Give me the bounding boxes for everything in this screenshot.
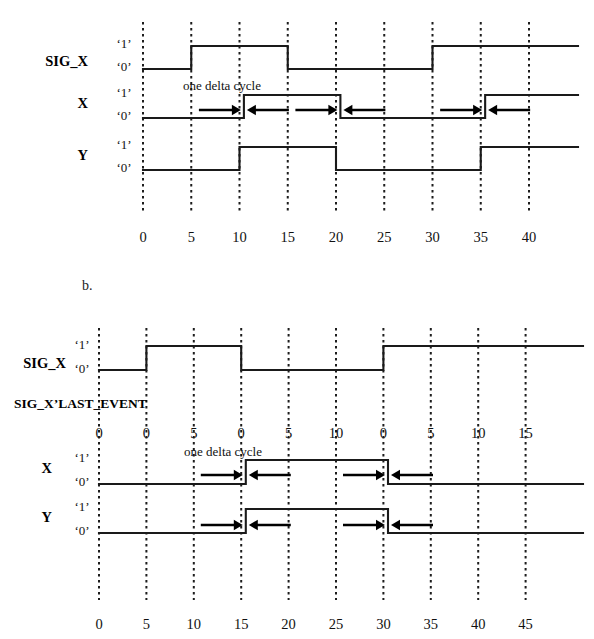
delta-cycle-annotation: one delta cycle bbox=[183, 78, 261, 93]
waveforms-a bbox=[143, 46, 578, 170]
delta-arrow-left-head bbox=[391, 470, 400, 480]
waveform-SIG_X bbox=[143, 46, 578, 69]
waveform-X bbox=[143, 95, 578, 118]
signal-name-SIG_X: SIG_X bbox=[23, 355, 66, 371]
axis-tick-30: 30 bbox=[376, 616, 391, 632]
last-event-tick-3: 0 bbox=[238, 425, 245, 441]
last-event-tick-2: 5 bbox=[190, 425, 197, 441]
waveform-Y bbox=[99, 509, 583, 533]
last-event-label: SIG_X’LAST_EVENT bbox=[14, 396, 147, 411]
last-event-tick-5: 10 bbox=[329, 425, 344, 441]
axis-tick-15: 15 bbox=[281, 229, 296, 245]
axis-tick-5: 5 bbox=[188, 229, 195, 245]
gridlines-b bbox=[99, 328, 526, 600]
last-event-tick-4: 5 bbox=[285, 425, 292, 441]
axis-tick-0: 0 bbox=[95, 616, 102, 632]
signal-labels-a: SIG_X‘1’‘0’X‘1’‘0’Y‘1’‘0’ bbox=[45, 36, 131, 175]
signal-name-X: X bbox=[78, 95, 89, 111]
axis-labels-a: 0510152025303540 bbox=[139, 229, 536, 245]
waveform-Y bbox=[143, 147, 578, 170]
last-event-tick-0: 0 bbox=[95, 425, 102, 441]
last-event-tick-7: 5 bbox=[427, 425, 434, 441]
level-low-SIG_X: ‘0’ bbox=[74, 361, 89, 376]
waveform-X bbox=[99, 460, 583, 484]
axis-tick-20: 20 bbox=[281, 616, 296, 632]
signal-name-Y: Y bbox=[42, 509, 53, 525]
last-event-tick-1: 0 bbox=[143, 425, 150, 441]
axis-tick-45: 45 bbox=[518, 616, 533, 632]
axis-tick-5: 5 bbox=[143, 616, 150, 632]
annotation-a: one delta cycle bbox=[183, 78, 261, 93]
delta-arrow-left-head bbox=[391, 520, 400, 530]
level-low-SIG_X: ‘0’ bbox=[116, 59, 131, 74]
axis-labels-b: 051015202530354045 bbox=[95, 616, 532, 632]
axis-tick-40: 40 bbox=[522, 229, 537, 245]
axis-tick-10: 10 bbox=[232, 229, 247, 245]
timing-diagram-b: b. SIG_X‘1’‘0’X‘1’‘0’Y‘1’‘0’SIG_X’LAST_E… bbox=[0, 260, 594, 639]
level-high-SIG_X: ‘1’ bbox=[116, 36, 131, 51]
annotation-b: one delta cycle bbox=[184, 444, 262, 459]
axis-tick-30: 30 bbox=[425, 229, 440, 245]
last-event-tick-8: 10 bbox=[471, 425, 486, 441]
level-high-Y: ‘1’ bbox=[74, 499, 89, 514]
delta-arrow-left-head bbox=[249, 470, 258, 480]
signal-name-SIG_X: SIG_X bbox=[45, 53, 88, 69]
signal-name-X: X bbox=[42, 460, 53, 476]
timing-diagram-b-canvas: SIG_X‘1’‘0’X‘1’‘0’Y‘1’‘0’SIG_X’LAST_EVEN… bbox=[0, 260, 594, 639]
level-low-X: ‘0’ bbox=[116, 108, 131, 123]
signal-name-Y: Y bbox=[78, 147, 89, 163]
last-event-tick-9: 15 bbox=[518, 425, 533, 441]
level-high-SIG_X: ‘1’ bbox=[74, 337, 89, 352]
delta-arrow-left-head bbox=[343, 105, 352, 115]
axis-tick-0: 0 bbox=[139, 229, 146, 245]
level-low-Y: ‘0’ bbox=[74, 523, 89, 538]
last-event-axis: SIG_X’LAST_EVENT0050510051015 bbox=[14, 396, 533, 441]
level-high-X: ‘1’ bbox=[74, 450, 89, 465]
axis-tick-25: 25 bbox=[377, 229, 392, 245]
axis-tick-20: 20 bbox=[329, 229, 344, 245]
delta-arrow-left-head bbox=[488, 105, 497, 115]
axis-tick-15: 15 bbox=[234, 616, 249, 632]
timing-diagram-a-canvas: SIG_X‘1’‘0’X‘1’‘0’Y‘1’‘0’one delta cycle… bbox=[0, 0, 594, 260]
delta-arrow-left-head bbox=[249, 520, 258, 530]
last-event-tick-6: 0 bbox=[380, 425, 387, 441]
delta-arrow-left-head bbox=[247, 105, 256, 115]
axis-tick-35: 35 bbox=[424, 616, 439, 632]
level-low-Y: ‘0’ bbox=[116, 160, 131, 175]
axis-tick-35: 35 bbox=[474, 229, 489, 245]
delta-arrows-b bbox=[201, 470, 433, 530]
waveform-SIG_X bbox=[99, 346, 583, 370]
signal-labels-b: SIG_X‘1’‘0’X‘1’‘0’Y‘1’‘0’ bbox=[23, 337, 89, 538]
axis-tick-25: 25 bbox=[329, 616, 344, 632]
timing-diagram-a: SIG_X‘1’‘0’X‘1’‘0’Y‘1’‘0’one delta cycle… bbox=[0, 0, 594, 260]
axis-tick-40: 40 bbox=[471, 616, 486, 632]
delta-cycle-annotation: one delta cycle bbox=[184, 444, 262, 459]
level-high-Y: ‘1’ bbox=[116, 137, 131, 152]
axis-tick-10: 10 bbox=[187, 616, 202, 632]
level-high-X: ‘1’ bbox=[116, 85, 131, 100]
level-low-X: ‘0’ bbox=[74, 474, 89, 489]
